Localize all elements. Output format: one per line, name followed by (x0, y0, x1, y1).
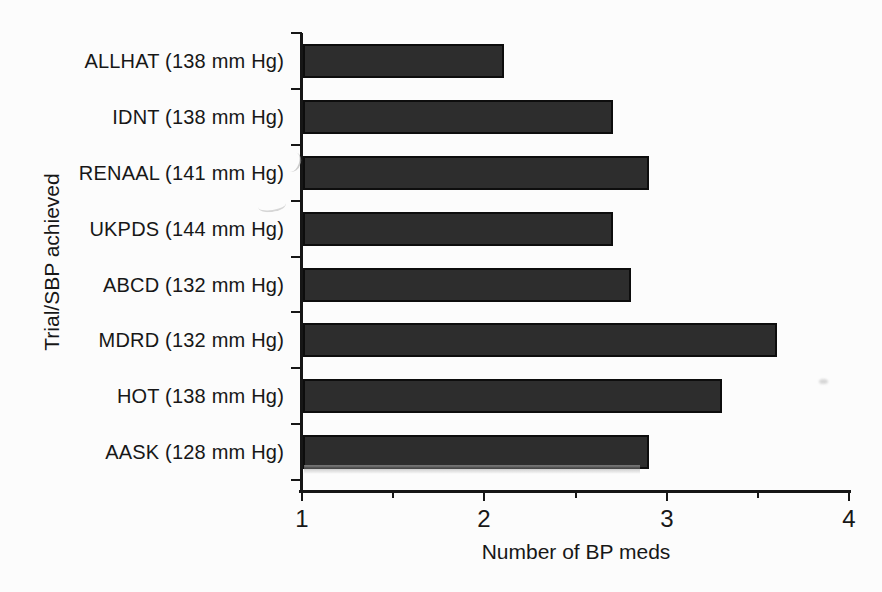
bar (303, 156, 649, 190)
y-axis-title: Trial/SBP achieved (40, 173, 64, 350)
y-axis-line (300, 33, 303, 493)
plot-area: ALLHAT (138 mm Hg)IDNT (138 mm Hg)RENAAL… (0, 0, 882, 592)
bar (303, 435, 649, 469)
x-axis-title: Number of BP meds (482, 540, 671, 564)
bar-chart-figure: ALLHAT (138 mm Hg)IDNT (138 mm Hg)RENAAL… (0, 0, 882, 592)
bar (303, 100, 613, 134)
x-tick-label: 4 (819, 506, 879, 532)
category-label: IDNT (138 mm Hg) (0, 106, 284, 128)
bar (303, 379, 722, 413)
bar (303, 44, 504, 78)
category-label: AASK (128 mm Hg) (0, 441, 284, 463)
x-tick-label: 1 (272, 506, 332, 532)
bar (303, 212, 613, 246)
x-axis-line (299, 490, 851, 493)
x-tick-label: 3 (637, 506, 697, 532)
category-label: ALLHAT (138 mm Hg) (0, 50, 284, 72)
category-label: HOT (138 mm Hg) (0, 385, 284, 407)
bar (303, 323, 777, 357)
bar (303, 268, 631, 302)
x-tick-label: 2 (454, 506, 514, 532)
